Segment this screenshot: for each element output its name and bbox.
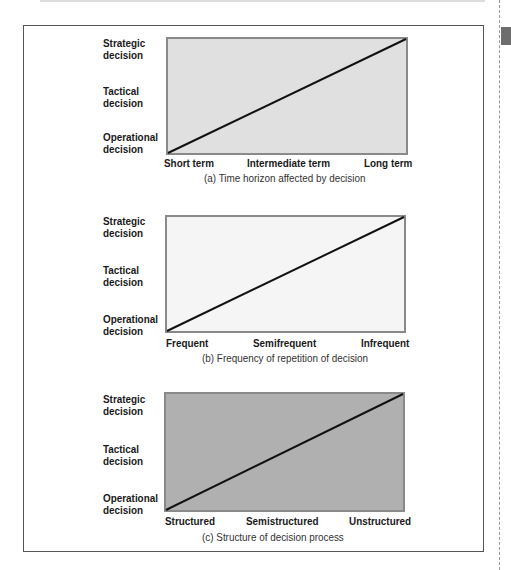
diagonal-line-c: [164, 392, 405, 512]
x-label-mid-b: Semifrequent: [253, 337, 316, 349]
x-label-mid-a: Intermediate term: [247, 157, 330, 169]
y-label-tactical: Tactical decision: [103, 443, 143, 467]
y-label-tactical: Tactical decision: [103, 264, 143, 288]
caption-a: (a) Time horizon affected by decision: [204, 172, 365, 184]
x-label-left-a: Short term: [164, 157, 214, 169]
chart-area-b: [165, 215, 406, 333]
top-rule: [40, 0, 485, 2]
y-label-tactical: Tactical decision: [103, 85, 143, 109]
y-label-operational: Operational decision: [103, 313, 158, 337]
chart-area-c: [164, 392, 405, 512]
x-label-mid-c: Semistructured: [246, 515, 319, 527]
x-label-left-b: Frequent: [166, 337, 208, 349]
caption-b: (b) Frequency of repetition of decision: [202, 352, 368, 364]
y-label-strategic: Strategic decision: [103, 37, 145, 61]
y-label-operational: Operational decision: [103, 492, 158, 516]
x-label-right-a: Long term: [364, 157, 412, 169]
chart-area-a: [166, 37, 408, 155]
side-tab-marker: [501, 27, 511, 45]
x-label-left-c: Structured: [165, 515, 215, 527]
y-label-operational: Operational decision: [103, 131, 158, 155]
y-label-strategic: Strategic decision: [103, 215, 145, 239]
page-margin-dashed-line: [499, 0, 500, 570]
x-label-right-c: Unstructured: [349, 515, 411, 527]
caption-c: (c) Structure of decision process: [202, 531, 344, 543]
diagonal-line-a: [166, 37, 408, 155]
y-label-strategic: Strategic decision: [103, 393, 145, 417]
x-label-right-b: Infrequent: [361, 337, 409, 349]
diagonal-line-b: [165, 215, 406, 333]
